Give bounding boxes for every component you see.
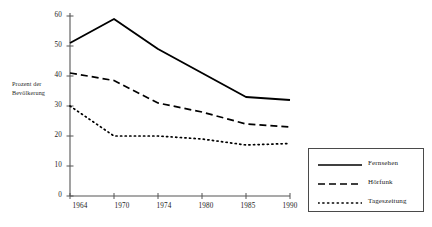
legend-item-fernsehen: Fernsehen <box>309 157 425 173</box>
series-line-h-rfunk <box>70 73 290 127</box>
series-line-tageszeitung <box>70 106 290 145</box>
legend-line-sample-solid <box>318 164 362 166</box>
axis-lines <box>70 13 290 196</box>
legend-label-fernsehen: Fernsehen <box>368 159 398 167</box>
series-line-fernsehen <box>70 19 290 100</box>
legend-line-sample-dashed <box>318 183 362 185</box>
legend-item-hoerfunk: Hörfunk <box>309 176 425 192</box>
data-series-layer <box>70 19 290 145</box>
legend-label-tageszeitung: Tageszeitung <box>368 197 407 205</box>
legend-label-hoerfunk: Hörfunk <box>368 178 393 186</box>
chart-figure: Prozent der Bevölkerung 60 50 40 30 20 1… <box>0 0 432 227</box>
legend-item-tageszeitung: Tageszeitung <box>309 195 425 211</box>
legend-line-sample-dotted <box>318 202 362 204</box>
legend-box: Fernsehen Hörfunk Tageszeitung <box>308 148 424 212</box>
